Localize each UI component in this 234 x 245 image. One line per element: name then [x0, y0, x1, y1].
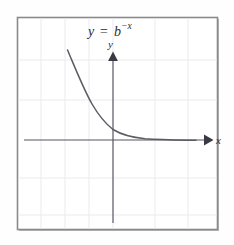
title-lhs: y: [86, 24, 95, 39]
exponential-decay-chart: y = b −x y x: [0, 0, 234, 245]
title-equals: =: [99, 24, 108, 39]
plot-frame: [18, 18, 218, 230]
title-base: b: [114, 24, 121, 39]
y-axis-label: y: [107, 38, 113, 50]
x-axis-label: x: [215, 134, 221, 146]
figure-container: y = b −x y x: [0, 0, 234, 245]
title-exponent: −x: [121, 21, 132, 31]
